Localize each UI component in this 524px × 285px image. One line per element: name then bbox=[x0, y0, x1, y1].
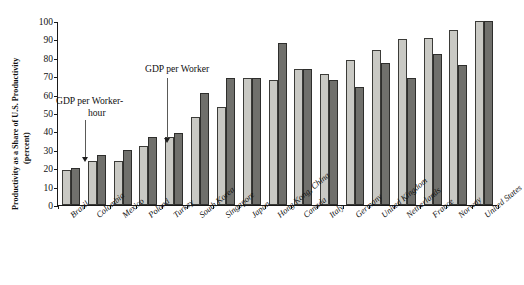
bar-group bbox=[135, 22, 161, 205]
bar-worker bbox=[381, 63, 390, 205]
y-axis-title-line2: (percent) bbox=[22, 132, 31, 164]
bar-group bbox=[394, 22, 420, 205]
bar-worker-hour bbox=[243, 78, 252, 205]
bar-worker-hour bbox=[88, 161, 97, 205]
bar-group bbox=[290, 22, 316, 205]
bar-worker-hour bbox=[346, 60, 355, 205]
bar-worker-hour bbox=[398, 39, 407, 205]
bar-worker bbox=[329, 80, 338, 205]
bar-group bbox=[239, 22, 265, 205]
bar-group bbox=[110, 22, 136, 205]
bar-group bbox=[471, 22, 497, 205]
bar-worker-hour bbox=[475, 21, 484, 205]
bar-worker-hour bbox=[372, 50, 381, 205]
bar-group bbox=[187, 22, 213, 205]
bar-group bbox=[445, 22, 471, 205]
bar-group bbox=[58, 22, 84, 205]
bar-worker bbox=[97, 155, 106, 205]
bar-worker-hour bbox=[139, 146, 148, 205]
bar-worker-hour bbox=[269, 80, 278, 205]
annotation-gdp-per-worker-line1: GDP per Worker bbox=[145, 63, 209, 74]
bar-worker bbox=[252, 78, 261, 205]
bar-worker-hour bbox=[191, 117, 200, 205]
annotation-gdp-per-worker-hour-line2: hour bbox=[88, 107, 106, 118]
y-axis-title: Productivity as a Share of U.S. Producti… bbox=[0, 14, 28, 210]
annotation-gdp-per-worker-hour-line1: GDP per Worker- bbox=[56, 95, 123, 106]
bar-worker-hour bbox=[449, 30, 458, 205]
plot-area: 0102030405060708090100 bbox=[57, 22, 497, 206]
x-axis-labels: BrazilColombiaMexicoPolandTurkeySouth Ko… bbox=[57, 208, 497, 280]
annotation-arrow-line-worker-hour bbox=[85, 120, 86, 158]
bar-worker bbox=[484, 21, 493, 205]
bar-worker-hour bbox=[165, 137, 174, 205]
bar-worker bbox=[278, 43, 287, 205]
annotation-arrowhead-worker bbox=[164, 138, 170, 143]
bar-worker bbox=[355, 87, 364, 205]
bar-worker bbox=[200, 93, 209, 205]
bar-worker bbox=[458, 65, 467, 205]
bar-group bbox=[368, 22, 394, 205]
bar-worker bbox=[174, 133, 183, 205]
bar-groups bbox=[58, 22, 497, 205]
bar-worker-hour bbox=[294, 69, 303, 205]
bar-group bbox=[342, 22, 368, 205]
annotation-arrow-line-worker bbox=[167, 78, 168, 139]
bar-group bbox=[161, 22, 187, 205]
bar-worker bbox=[148, 137, 157, 205]
bar-worker-hour bbox=[62, 170, 71, 205]
annotation-arrowhead-worker-hour bbox=[82, 157, 88, 162]
bar-group bbox=[213, 22, 239, 205]
y-axis-title-line1: Productivity as a Share of U.S. Producti… bbox=[11, 58, 20, 210]
bar-worker bbox=[433, 54, 442, 205]
bar-worker bbox=[71, 168, 80, 205]
bar-group bbox=[265, 22, 291, 205]
